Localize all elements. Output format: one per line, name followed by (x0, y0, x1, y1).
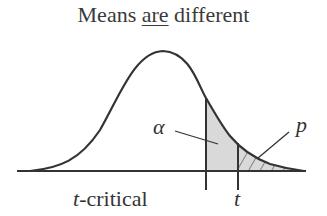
t-statistic-label: t (234, 188, 240, 210)
p-value-label: p (296, 114, 307, 136)
bell-curve (30, 51, 304, 171)
t-critical-label: t-critical (73, 188, 148, 210)
alpha-label: α (153, 116, 165, 138)
distribution-diagram (0, 0, 327, 216)
p-leader-line (258, 132, 289, 158)
t-critical-text: -critical (79, 186, 147, 211)
